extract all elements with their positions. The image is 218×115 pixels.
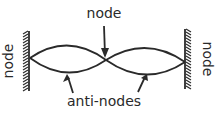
hatch-mark (23, 31, 28, 34)
hatch-mark (186, 62, 191, 65)
hatch-mark (186, 65, 191, 68)
hatch-mark (186, 44, 191, 47)
hatch-mark (23, 67, 28, 70)
antinodes-label: anti-nodes (67, 93, 141, 109)
center-node-label: node (87, 5, 122, 21)
hatch-mark (23, 58, 28, 61)
wave-lower-right (106, 60, 185, 75)
hatch-mark (23, 88, 28, 91)
hatch-mark (23, 70, 28, 73)
hatch-mark (186, 59, 191, 62)
hatch-mark (23, 73, 28, 76)
hatch-mark (23, 55, 28, 58)
hatch-mark (23, 61, 28, 64)
hatch-mark (23, 40, 28, 43)
hatch-mark (23, 76, 28, 79)
hatch-mark (186, 83, 191, 86)
standing-wave-diagram: node anti-nodes node node (0, 0, 218, 115)
hatch-mark (186, 53, 191, 56)
hatch-mark (186, 80, 191, 83)
left-wall (23, 31, 29, 91)
right-wall-hatching (186, 29, 191, 89)
hatch-mark (186, 77, 191, 80)
hatch-mark (186, 56, 191, 59)
hatch-mark (23, 52, 28, 55)
hatch-mark (186, 68, 191, 71)
wave-lower-left (30, 58, 106, 73)
hatch-mark (186, 29, 191, 32)
hatch-mark (186, 50, 191, 53)
left-wall-hatching (23, 31, 28, 91)
wave-upper-right (106, 48, 185, 62)
hatch-mark (186, 86, 191, 89)
hatch-mark (23, 49, 28, 52)
node-arrow (101, 26, 109, 58)
antinode-arrow-left (63, 74, 73, 93)
hatch-mark (23, 79, 28, 82)
hatch-mark (186, 32, 191, 35)
left-node-label: node (0, 44, 16, 79)
hatch-mark (186, 74, 191, 77)
hatch-mark (186, 71, 191, 74)
hatch-mark (186, 38, 191, 41)
wave-upper-left (30, 45, 106, 60)
hatch-mark (186, 35, 191, 38)
right-wall (185, 29, 191, 89)
hatch-mark (23, 85, 28, 88)
hatch-mark (23, 64, 28, 67)
right-node-label: node (200, 42, 216, 77)
hatch-mark (23, 34, 28, 37)
hatch-mark (186, 47, 191, 50)
antinode-arrow-right (138, 74, 148, 92)
hatch-mark (23, 46, 28, 49)
hatch-mark (23, 37, 28, 40)
hatch-mark (23, 43, 28, 46)
hatch-mark (186, 41, 191, 44)
hatch-mark (23, 82, 28, 85)
